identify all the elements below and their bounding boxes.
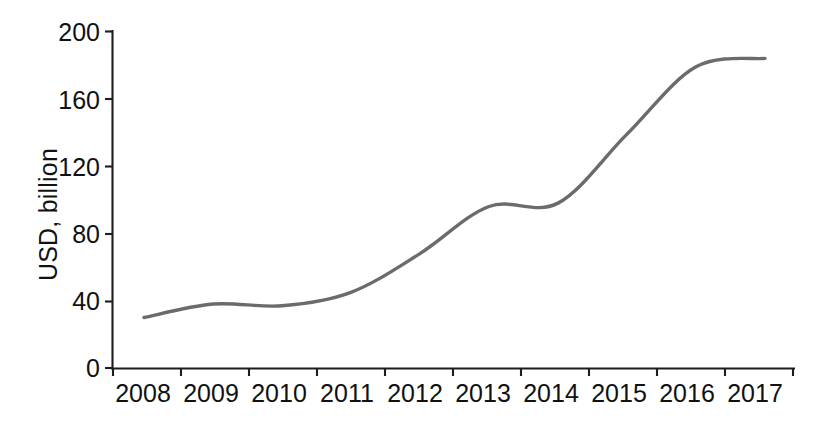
y-axis-ticks	[105, 32, 113, 369]
plot-area	[0, 0, 819, 424]
series-line-usd-billion	[144, 58, 765, 317]
x-axis-ticks	[113, 369, 793, 377]
line-chart: USD, billion 200 160 120 80 40 0 2008 20…	[0, 0, 819, 424]
